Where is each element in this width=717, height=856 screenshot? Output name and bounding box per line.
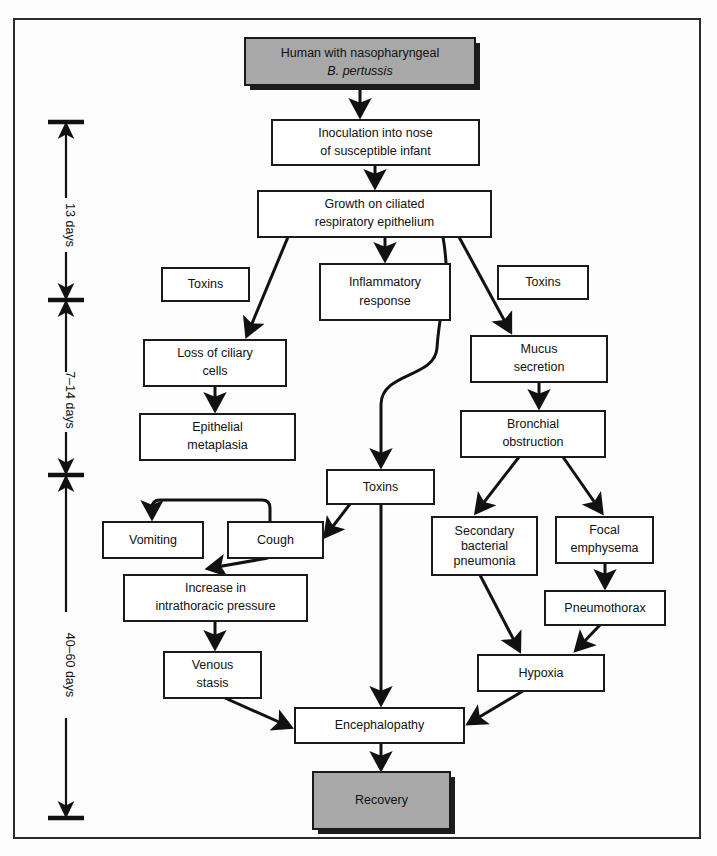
edge-hypoxia-to-encephalopathy bbox=[471, 691, 523, 722]
node-label-line-2: of susceptible infant bbox=[320, 144, 431, 158]
node-label-line-1: Epithelial bbox=[192, 420, 243, 434]
node-toxins-left[interactable]: Toxins bbox=[162, 268, 249, 301]
node-label-line-1: Secondary bbox=[455, 524, 516, 538]
node-label: Toxins bbox=[525, 275, 560, 289]
node-box bbox=[320, 264, 450, 320]
node-label-line-2: bacterial bbox=[461, 539, 508, 553]
node-label-line-2: cells bbox=[202, 364, 227, 378]
node-inoculation-into-nose[interactable]: Inoculation into nose of susceptible inf… bbox=[272, 120, 479, 165]
edge-bronchial-to-focal bbox=[563, 457, 600, 510]
node-epithelial-metaplasia[interactable]: Epithelial metaplasia bbox=[140, 414, 295, 460]
node-focal-emphysema[interactable]: Focal emphysema bbox=[556, 517, 653, 563]
node-label-line-1: Focal bbox=[589, 523, 620, 537]
node-toxins-right[interactable]: Toxins bbox=[498, 266, 588, 299]
figure-root: 13 days 7–14 days 40–60 days bbox=[0, 0, 717, 856]
node-cough[interactable]: Cough bbox=[228, 522, 323, 558]
node-label-line-1: Inoculation into nose bbox=[318, 126, 433, 140]
node-toxins-middle[interactable]: Toxins bbox=[327, 470, 434, 504]
node-label-line-1: Growth on ciliated bbox=[324, 197, 424, 211]
node-label: Hypoxia bbox=[518, 666, 563, 680]
node-recovery[interactable]: Recovery bbox=[313, 772, 455, 834]
node-label-line-2: response bbox=[359, 294, 410, 308]
node-label-line-1: Mucus bbox=[521, 342, 558, 356]
node-label-line-2: metaplasia bbox=[187, 438, 247, 452]
node-label-line-2: B. pertussis bbox=[327, 64, 392, 78]
node-label: Pneumothorax bbox=[564, 601, 646, 615]
node-label-line-2: respiratory epithelium bbox=[315, 215, 435, 229]
node-hypoxia[interactable]: Hypoxia bbox=[478, 655, 604, 691]
pertussis-pathogenesis-flowchart: 13 days 7–14 days 40–60 days bbox=[0, 0, 717, 856]
edge-toxins-to-cough bbox=[327, 504, 350, 534]
node-mucus-secretion[interactable]: Mucus secretion bbox=[471, 336, 607, 382]
node-label-line-1: Venous bbox=[192, 658, 234, 672]
node-venous-stasis[interactable]: Venous stasis bbox=[164, 652, 261, 698]
node-label-line-1: Human with nasopharyngeal bbox=[281, 46, 439, 60]
timeline-label-7-14-days: 7–14 days bbox=[63, 371, 77, 429]
node-pneumothorax[interactable]: Pneumothorax bbox=[545, 591, 665, 625]
node-label: Vomiting bbox=[129, 533, 177, 547]
node-label-line-2: obstruction bbox=[502, 435, 563, 449]
timeline-segment-13-days: 13 days bbox=[48, 122, 84, 294]
node-label: Encephalopathy bbox=[335, 718, 425, 732]
node-label-line-1: Bronchial bbox=[507, 417, 559, 431]
node-label-line-2: stasis bbox=[197, 676, 229, 690]
edge-venous-to-encephalopathy bbox=[225, 698, 288, 726]
node-label: Toxins bbox=[188, 277, 223, 291]
edge-bronchial-to-secondary bbox=[478, 457, 519, 510]
node-vomiting[interactable]: Vomiting bbox=[103, 522, 203, 558]
timeline-scale: 13 days 7–14 days 40–60 days bbox=[48, 122, 84, 818]
node-encephalopathy[interactable]: Encephalopathy bbox=[295, 708, 464, 743]
node-increase-in-intrathoracic-pressure[interactable]: Increase in intrathoracic pressure bbox=[124, 575, 307, 621]
node-label-line-1: Inflammatory bbox=[349, 275, 422, 289]
node-secondary-bacterial-pneumonia[interactable]: Secondary bacterial pneumonia bbox=[432, 517, 537, 575]
node-label-line-2: emphysema bbox=[570, 541, 638, 555]
edge-growth-to-loss-ciliary bbox=[248, 237, 288, 333]
node-human-with-nasopharyngeal-b-pertussis[interactable]: Human with nasopharyngeal B. pertussis bbox=[245, 38, 480, 90]
node-label-line-2: secretion bbox=[514, 360, 565, 374]
timeline-label-40-60-days: 40–60 days bbox=[63, 633, 77, 698]
node-label-line-1: Increase in bbox=[185, 581, 246, 595]
node-bronchial-obstruction[interactable]: Bronchial obstruction bbox=[461, 411, 605, 457]
edge-pneumothorax-to-hypoxia bbox=[578, 625, 600, 648]
edge-secondary-to-hypoxia bbox=[480, 575, 518, 648]
node-label-line-3: pneumonia bbox=[454, 554, 516, 568]
timeline-label-13-days: 13 days bbox=[63, 203, 77, 247]
node-label-line-2: intrathoracic pressure bbox=[155, 599, 275, 613]
timeline-segment-7-14-days: 7–14 days bbox=[48, 300, 84, 469]
node-label: Cough bbox=[257, 533, 294, 547]
edge-cough-to-increase bbox=[211, 558, 268, 568]
node-growth-on-ciliated-respiratory-epithelium[interactable]: Growth on ciliated respiratory epitheliu… bbox=[258, 191, 491, 237]
node-label: Recovery bbox=[355, 793, 409, 807]
node-loss-of-ciliary-cells[interactable]: Loss of ciliary cells bbox=[144, 340, 286, 386]
node-inflammatory-response[interactable]: Inflammatory response bbox=[320, 264, 450, 320]
edge-cough-to-vomiting bbox=[152, 500, 270, 522]
node-label-line-1: Loss of ciliary bbox=[177, 346, 253, 360]
node-label: Toxins bbox=[363, 480, 398, 494]
timeline-segment-40-60-days: 40–60 days bbox=[48, 475, 84, 818]
